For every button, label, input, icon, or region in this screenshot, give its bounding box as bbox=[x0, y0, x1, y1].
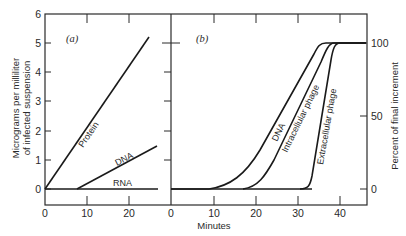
dna-curve-b bbox=[171, 43, 366, 189]
panel-a-label: (a) bbox=[66, 33, 79, 45]
right-y-tick-label: 0 bbox=[371, 183, 377, 195]
x-tick-label: 20 bbox=[250, 207, 262, 219]
x-tick-label: 10 bbox=[208, 207, 220, 219]
y-tick-label: 3 bbox=[35, 95, 41, 107]
y-tick-label: 0 bbox=[35, 183, 41, 195]
y-tick-label: 6 bbox=[35, 8, 41, 20]
panel-b-label: (b) bbox=[196, 33, 209, 45]
figure: 0 1 2 3 4 5 6 Micrograms per milliliter … bbox=[0, 0, 406, 236]
panel-a-plot: (a) Protein DNA RNA bbox=[45, 33, 157, 189]
right-y-axis-title: Percent of final increment bbox=[389, 62, 400, 170]
x-tick-label: 20 bbox=[123, 207, 135, 219]
dna-curve-label: DNA bbox=[113, 150, 134, 168]
y-tick-label: 4 bbox=[35, 66, 41, 78]
x-tick-label: 40 bbox=[334, 207, 346, 219]
extracellular-phage-label: Extracellular phage bbox=[315, 88, 338, 166]
right-y-axis: 100 50 0 Percent of final increment bbox=[360, 37, 400, 195]
right-y-tick-label: 100 bbox=[371, 37, 389, 49]
x-tick-label: 0 bbox=[168, 207, 174, 219]
intracellular-phage-label: Intracellular phage bbox=[280, 83, 321, 154]
protein-curve-label: Protein bbox=[76, 120, 100, 149]
protein-curve bbox=[45, 37, 149, 189]
y-tick-label: 5 bbox=[35, 37, 41, 49]
left-y-axis-title-line2: of infected suspension bbox=[21, 61, 32, 156]
x-tick-label: 30 bbox=[292, 207, 304, 219]
x-tick-label: 0 bbox=[42, 207, 48, 219]
rna-curve-label: RNA bbox=[113, 178, 132, 188]
right-y-tick-label: 50 bbox=[371, 110, 383, 122]
y-tick-label: 2 bbox=[35, 125, 41, 137]
y-tick-label: 1 bbox=[35, 154, 41, 166]
panel-b-plot: (b) DNA Intracellular phage Extracellula… bbox=[171, 33, 366, 189]
left-y-axis-title-line1: Micrograms per milliliter bbox=[10, 58, 21, 158]
x-axis-title: Minutes bbox=[197, 220, 231, 231]
x-tick-label: 10 bbox=[81, 207, 93, 219]
